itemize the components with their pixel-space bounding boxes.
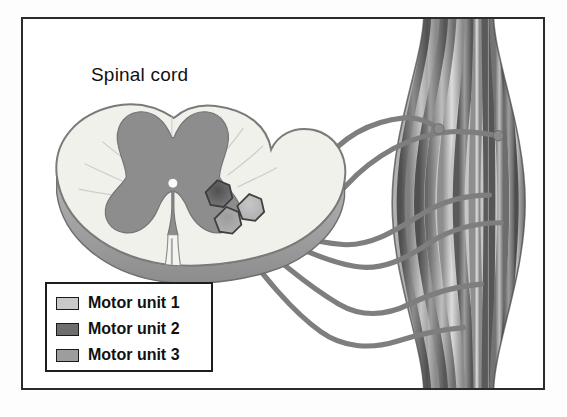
central-canal (168, 178, 178, 188)
legend-item-motor-unit-2: Motor unit 2 (56, 316, 211, 342)
motor-endplate-2 (493, 131, 503, 141)
spinal-cord-cross-section (56, 104, 345, 283)
legend-item-motor-unit-1: Motor unit 1 (56, 290, 211, 316)
legend-label-unit-2: Motor unit 2 (88, 321, 180, 337)
spinal-cord-label: Spinal cord (91, 64, 188, 86)
legend-label-unit-1: Motor unit 1 (88, 295, 180, 311)
legend: Motor unit 1 Motor unit 2 Motor unit 3 (45, 282, 213, 372)
legend-label-unit-3: Motor unit 3 (88, 347, 180, 363)
skeletal-muscle-belly (388, 19, 534, 388)
motor-endplate-1 (434, 124, 444, 134)
legend-swatch-unit-1 (56, 297, 79, 310)
figure-frame: Spinal cord Motor unit 1 Motor unit 2 Mo… (21, 17, 545, 390)
legend-item-motor-unit-3: Motor unit 3 (56, 342, 211, 368)
legend-swatch-unit-3 (56, 349, 79, 362)
legend-swatch-unit-2 (56, 323, 79, 336)
